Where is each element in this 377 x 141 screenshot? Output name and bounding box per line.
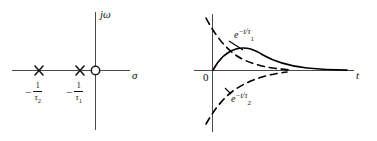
- fraction-numerator-tau1: 1: [75, 81, 82, 91]
- zero-marker-origin: [91, 66, 99, 74]
- minus-sign-tau1: −: [66, 87, 72, 98]
- origin-label: 0: [203, 72, 209, 83]
- s-plane-panel: jω σ − 1 τ2 − 1 τ1: [0, 0, 189, 141]
- pole-label-tau1: − 1 τ1: [66, 81, 83, 104]
- pole-label-tau2: − 1 τ2: [25, 81, 42, 104]
- curve-label-subscript-tau1: 1: [250, 35, 254, 43]
- curve-label-exponent-tau1: −t/τ: [238, 27, 250, 36]
- tau-subscript-1: 1: [79, 97, 82, 104]
- figure-root: jω σ − 1 τ2 − 1 τ1: [0, 0, 377, 141]
- time-response-svg: [189, 0, 377, 141]
- fraction-tau2: 1 τ2: [33, 81, 42, 104]
- time-response-panel: 0 t e−t/τ1 e−t/τ2: [189, 0, 377, 141]
- t-axis-label: t: [356, 70, 359, 81]
- s-plane-svg: [0, 0, 189, 141]
- fraction-denominator-tau1: τ1: [74, 92, 82, 104]
- fraction-denominator-tau2: τ2: [33, 92, 41, 104]
- sigma-axis-label: σ: [132, 70, 137, 81]
- jomega-axis-label: jω: [100, 9, 111, 20]
- curve-label-subscript-tau2: 2: [247, 99, 251, 107]
- tau-subscript-2: 2: [38, 97, 41, 104]
- minus-sign-tau2: −: [25, 87, 31, 98]
- curve-label-exp-tau2: e−t/τ2: [231, 92, 251, 107]
- curve-label-exponent-tau2: −t/τ: [235, 91, 247, 100]
- curve-label-exp-tau1: e−t/τ1: [234, 28, 254, 43]
- curve-combined-response: [213, 48, 347, 70]
- fraction-tau1: 1 τ1: [74, 81, 83, 104]
- fraction-numerator-tau2: 1: [34, 81, 41, 91]
